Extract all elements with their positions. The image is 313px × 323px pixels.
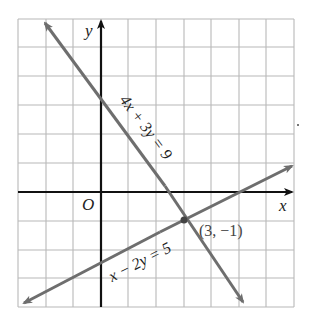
stray-dot: [297, 124, 299, 126]
intersection-point: [181, 217, 188, 224]
x-axis-label: x: [278, 196, 287, 215]
intersection-label: (3, −1): [199, 222, 243, 240]
coordinate-graph: y x O 4x + 3y = 9 x − 2y = 5 (3, −1): [0, 0, 313, 323]
grid: [18, 19, 294, 307]
line-4x-plus-3y-eq-9-lower: [165, 186, 243, 302]
equation-label-line2: x − 2y = 5: [105, 239, 174, 286]
origin-label: O: [82, 195, 94, 214]
y-axis-label: y: [83, 21, 93, 40]
equation-label-line1: 4x + 3y = 9: [116, 92, 176, 163]
